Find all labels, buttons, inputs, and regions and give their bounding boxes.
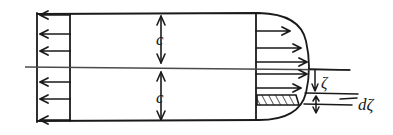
- zeta-witness-middle: [305, 93, 358, 94]
- label-half-height-upper: c: [156, 30, 164, 49]
- dzeta-dimension-arrow-down: [313, 104, 319, 113]
- figure-container: c c ζ dζ: [0, 0, 393, 135]
- outflow-arrow-3: [256, 58, 307, 66]
- zeta-dimension-group: [304, 69, 358, 113]
- outflow-arrow-1: [256, 27, 290, 35]
- dzeta-dimension-arrow-up: [313, 96, 319, 104]
- dzeta-leader-line: [340, 98, 357, 99]
- inflow-arrow-5: [40, 95, 70, 103]
- label-half-height-lower: c: [156, 88, 164, 107]
- outflow-arrow-2: [256, 44, 301, 52]
- outflow-arrow-group: [256, 27, 307, 92]
- axis-centerline: [25, 67, 350, 70]
- inflow-arrow-3: [40, 47, 70, 55]
- inflow-arrow-6: [40, 116, 70, 124]
- inflow-arrow-4: [40, 78, 70, 86]
- zeta-witness-bottom: [304, 104, 352, 105]
- label-dzeta: dζ: [358, 95, 375, 114]
- inflow-arrow-2: [40, 30, 70, 38]
- outflow-arrow-5: [256, 84, 301, 92]
- zeta-dimension-arrow: [312, 70, 318, 91]
- velocity-profile-diagram: c c ζ dζ: [0, 0, 393, 135]
- inflow-arrow-1: [40, 11, 70, 19]
- hatched-differential-element: [257, 95, 299, 105]
- outflow-arrow-4: [256, 70, 307, 78]
- label-zeta: ζ: [321, 74, 329, 92]
